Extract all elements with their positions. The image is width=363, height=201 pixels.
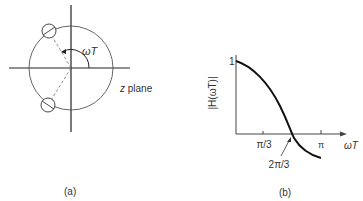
figure-b: 1 |H(ωT)| π/3 π ωT 2π/3 (b) [207, 55, 359, 198]
caption-a: (a) [64, 186, 76, 197]
figure-canvas: ωT z plane (a) 1 |H(ωT)| π/3 π ωT 2π/3 (… [0, 0, 363, 201]
magnitude-curve [236, 61, 321, 158]
x-tick-pi: π [318, 140, 324, 150]
y-axis-label: |H(ωT)| [207, 77, 218, 110]
x-axis-arrow-icon [340, 132, 347, 137]
x-tick-pi-over-3: π/3 [256, 139, 272, 150]
annotation-2pi-over-3: 2π/3 [269, 159, 290, 170]
angle-label: ωT [82, 45, 99, 57]
figure-a: ωT z plane (a) [9, 5, 153, 197]
y-tick-1: 1 [229, 56, 235, 67]
angle-arrow-icon [61, 49, 66, 54]
x-axis-label: ωT [344, 140, 359, 151]
pole-lower-icon [41, 98, 55, 112]
plane-label: z plane [119, 83, 153, 94]
annotation-arrow-icon [287, 137, 291, 142]
caption-b: (b) [279, 187, 291, 198]
pole-upper-icon [42, 24, 56, 38]
